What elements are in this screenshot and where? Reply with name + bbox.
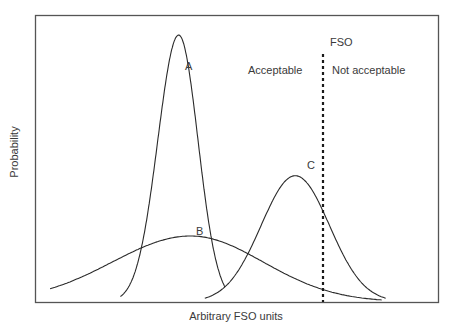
curve-c — [205, 176, 386, 299]
y-axis-label: Probability — [9, 126, 20, 177]
curve-b — [50, 236, 382, 300]
acceptable-label: Acceptable — [248, 64, 302, 76]
curve-b-label: B — [196, 225, 203, 237]
curve-a — [120, 35, 224, 296]
not-acceptable-label: Not acceptable — [332, 64, 405, 76]
fso-label: FSO — [330, 36, 353, 48]
curve-a-label: A — [185, 60, 193, 72]
curve-c-label: C — [307, 159, 315, 171]
plot-frame — [36, 16, 439, 303]
x-axis-label: Arbitrary FSO units — [189, 311, 283, 322]
chart-canvas: FSO Acceptable Not acceptable A B C — [0, 0, 450, 333]
